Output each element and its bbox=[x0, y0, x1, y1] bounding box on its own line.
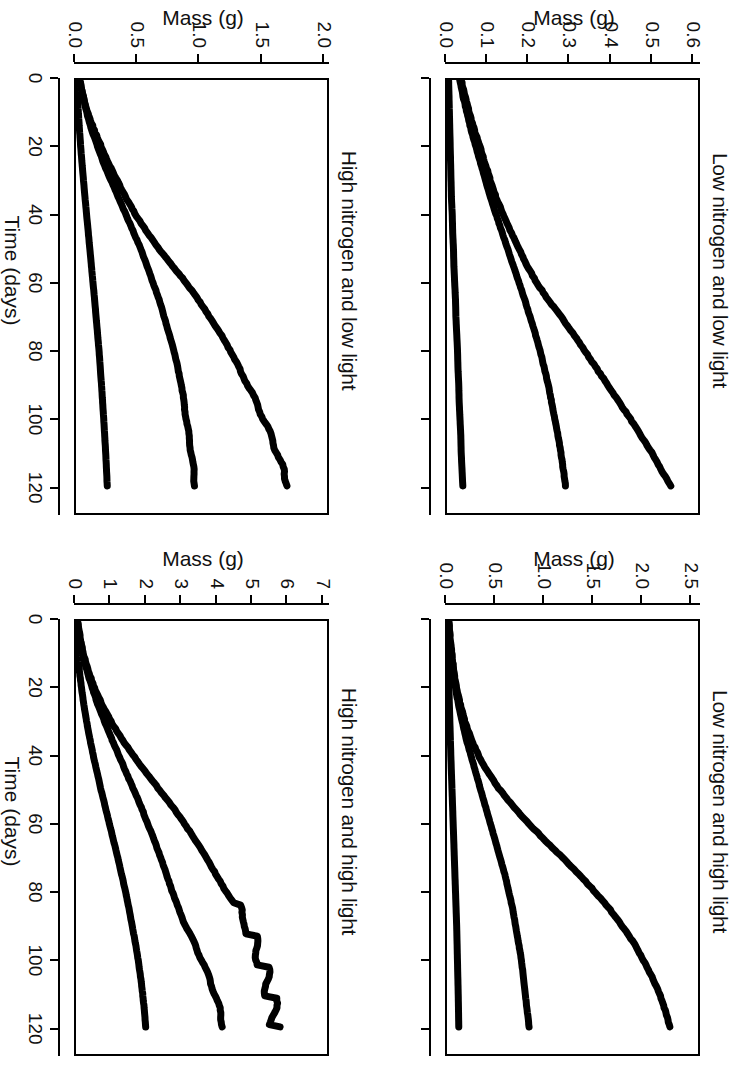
x-axis-tick bbox=[421, 418, 429, 420]
data-line bbox=[79, 80, 287, 486]
y-axis-tick-label: 1.0 bbox=[533, 541, 555, 589]
x-axis-tick-label: 100 bbox=[24, 930, 46, 990]
y-axis-tick-label: 5 bbox=[241, 541, 263, 589]
y-axis-tick-label: 4 bbox=[206, 541, 228, 589]
y-axis-tick-label: 3 bbox=[170, 541, 192, 589]
panel-high-nitrogen-low-light: High nitrogen and low light Mass (g) Tim… bbox=[0, 0, 371, 541]
y-axis-tick-label: 0.0 bbox=[435, 0, 457, 48]
plot-lines bbox=[447, 621, 698, 1054]
panel-high-nitrogen-high-light: High nitrogen and high light Mass (g) Ti… bbox=[0, 541, 371, 1082]
y-axis-tick bbox=[493, 595, 495, 603]
x-axis-tick-label: 20 bbox=[24, 116, 46, 176]
y-axis-tick-label: 0.5 bbox=[126, 0, 148, 48]
y-axis-tick bbox=[260, 54, 262, 62]
x-axis-tick bbox=[50, 755, 58, 757]
y-axis-tick-label: 1 bbox=[99, 541, 121, 589]
x-axis-tick bbox=[50, 350, 58, 352]
x-axis-line bbox=[429, 78, 431, 515]
panel-low-nitrogen-low-light: Low nitrogen and low light Mass (g) Time… bbox=[371, 0, 742, 541]
data-line bbox=[460, 80, 566, 486]
y-axis-tick bbox=[591, 595, 593, 603]
y-axis-tick bbox=[322, 54, 324, 62]
y-axis-tick-label: 0.5 bbox=[484, 541, 506, 589]
x-axis-tick bbox=[421, 755, 429, 757]
y-axis-tick-label: 0 bbox=[64, 541, 86, 589]
x-axis-tick bbox=[421, 350, 429, 352]
x-axis-tick bbox=[50, 282, 58, 284]
plot-lines bbox=[76, 80, 327, 513]
y-axis-tick-label: 2 bbox=[135, 541, 157, 589]
x-axis-tick-label: 80 bbox=[24, 862, 46, 922]
x-axis-tick bbox=[50, 686, 58, 688]
data-line bbox=[461, 80, 671, 486]
x-axis-tick bbox=[421, 959, 429, 961]
x-axis-tick-label: 120 bbox=[24, 458, 46, 518]
panel-grid: Low nitrogen and low light Mass (g) Time… bbox=[0, 0, 742, 1082]
panel-title: High nitrogen and high light bbox=[337, 541, 361, 1082]
data-line bbox=[449, 80, 463, 486]
panel-low-nitrogen-high-light: Low nitrogen and high light Mass (g) Tim… bbox=[371, 541, 742, 1082]
y-axis-tick bbox=[108, 595, 110, 603]
plot-lines bbox=[76, 621, 327, 1054]
y-axis-tick bbox=[640, 595, 642, 603]
data-line bbox=[449, 621, 670, 1027]
x-axis-tick bbox=[421, 686, 429, 688]
x-axis-tick-label: 40 bbox=[24, 726, 46, 786]
x-axis-tick bbox=[50, 145, 58, 147]
x-axis-title: Time (days) bbox=[0, 0, 24, 541]
y-axis-tick bbox=[73, 595, 75, 603]
y-axis-tick-label: 0.1 bbox=[476, 0, 498, 48]
x-axis-tick bbox=[421, 214, 429, 216]
x-axis-tick-label: 0 bbox=[24, 48, 46, 108]
y-axis-tick bbox=[286, 595, 288, 603]
y-axis-tick bbox=[321, 595, 323, 603]
y-axis-tick-label: 1.5 bbox=[251, 0, 273, 48]
y-axis-tick-label: 2.0 bbox=[631, 541, 653, 589]
y-axis-tick bbox=[691, 54, 693, 62]
x-axis-line bbox=[429, 619, 431, 1056]
y-axis-tick-label: 7 bbox=[312, 541, 334, 589]
y-axis-tick-label: 0.5 bbox=[641, 0, 663, 48]
x-axis-tick-label: 40 bbox=[24, 185, 46, 245]
x-axis-tick bbox=[50, 618, 58, 620]
y-axis-tick-label: 0.2 bbox=[517, 0, 539, 48]
panel-title: High nitrogen and low light bbox=[337, 0, 361, 541]
y-axis-tick-label: 0.6 bbox=[682, 0, 704, 48]
y-axis-tick bbox=[444, 54, 446, 62]
x-axis-tick bbox=[50, 418, 58, 420]
x-axis-line bbox=[58, 78, 60, 515]
x-axis-tick bbox=[50, 487, 58, 489]
y-axis-tick bbox=[609, 54, 611, 62]
x-axis-tick bbox=[421, 145, 429, 147]
y-axis-tick bbox=[144, 595, 146, 603]
y-axis-tick bbox=[567, 54, 569, 62]
y-axis-tick bbox=[542, 595, 544, 603]
data-line bbox=[76, 621, 145, 1027]
panel-title: Low nitrogen and low light bbox=[708, 0, 732, 541]
y-axis-tick bbox=[73, 54, 75, 62]
plot-area bbox=[74, 619, 329, 1056]
plot-lines bbox=[447, 80, 698, 513]
y-axis-tick bbox=[526, 54, 528, 62]
y-axis-tick bbox=[444, 595, 446, 603]
x-axis-tick bbox=[421, 282, 429, 284]
x-axis-tick bbox=[421, 823, 429, 825]
y-axis-tick-label: 2.5 bbox=[680, 541, 702, 589]
y-axis-line bbox=[74, 603, 329, 605]
data-line bbox=[79, 80, 194, 486]
figure-root: Low nitrogen and low light Mass (g) Time… bbox=[0, 0, 742, 1082]
y-axis-tick-label: 0.4 bbox=[600, 0, 622, 48]
y-axis-tick-label: 1.0 bbox=[188, 0, 210, 48]
y-axis-tick bbox=[650, 54, 652, 62]
x-axis-tick bbox=[50, 891, 58, 893]
x-axis-title: Time (days) bbox=[0, 541, 24, 1082]
x-axis-tick bbox=[421, 618, 429, 620]
x-axis-tick bbox=[421, 891, 429, 893]
panel-title: Low nitrogen and high light bbox=[708, 541, 732, 1082]
x-axis-tick bbox=[50, 214, 58, 216]
x-axis-tick bbox=[50, 77, 58, 79]
x-axis-tick-label: 20 bbox=[24, 657, 46, 717]
x-axis-tick bbox=[421, 1028, 429, 1030]
y-axis-tick-label: 0.3 bbox=[558, 0, 580, 48]
y-axis-tick bbox=[135, 54, 137, 62]
